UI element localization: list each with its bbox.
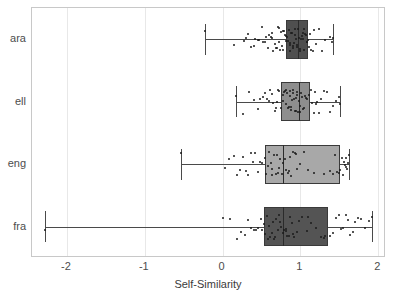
data-point: [345, 166, 347, 168]
data-point: [320, 98, 322, 100]
data-point: [318, 28, 320, 30]
data-point: [242, 113, 244, 115]
data-point: [289, 44, 291, 46]
data-point: [272, 50, 274, 52]
data-point: [248, 91, 250, 93]
data-point: [250, 152, 252, 154]
data-point: [349, 234, 351, 236]
y-axis-tick-ara: ara: [0, 32, 26, 44]
data-point: [342, 227, 344, 229]
data-point: [295, 110, 297, 112]
gridline-x-2: [378, 8, 379, 256]
data-point: [302, 32, 304, 34]
data-point: [258, 39, 260, 41]
data-point: [257, 108, 259, 110]
data-point: [279, 158, 281, 160]
data-point: [274, 110, 276, 112]
x-axis-title-text: Self-Similarity: [174, 278, 241, 290]
data-point: [346, 168, 348, 170]
data-point: [360, 218, 362, 220]
data-point: [313, 112, 315, 114]
data-point: [364, 227, 366, 229]
y-axis-tick-fra: fra: [0, 220, 26, 232]
data-point: [339, 169, 341, 171]
data-point: [268, 100, 270, 102]
data-point: [345, 214, 347, 216]
data-point: [271, 174, 273, 176]
data-point: [274, 43, 276, 45]
data-point: [304, 95, 306, 97]
data-point: [264, 157, 266, 159]
data-point: [308, 46, 310, 48]
data-point: [265, 36, 267, 38]
whisker-cap-low-fra: [45, 211, 46, 242]
data-point: [244, 234, 246, 236]
data-point: [313, 29, 315, 31]
y-axis-tick-ell: ell: [0, 95, 26, 107]
data-point: [288, 29, 290, 31]
data-point: [292, 89, 294, 91]
data-point: [309, 33, 311, 35]
data-point: [293, 42, 295, 44]
box-ara: [286, 20, 308, 59]
data-point: [242, 156, 244, 158]
data-point: [306, 41, 308, 43]
data-point: [345, 157, 347, 159]
data-point: [303, 28, 305, 30]
data-point: [294, 28, 296, 30]
data-point: [368, 220, 370, 222]
data-point: [289, 95, 291, 97]
median-line-eng: [283, 145, 284, 184]
y-axis-tick-eng: eng: [0, 157, 26, 169]
data-point: [247, 174, 249, 176]
data-point: [255, 229, 257, 231]
data-point: [281, 173, 283, 175]
x-axis-tick-neg2: -2: [61, 260, 71, 272]
data-point: [268, 225, 270, 227]
data-point: [326, 91, 328, 93]
data-point: [292, 233, 294, 235]
data-point: [224, 167, 226, 169]
data-point: [264, 92, 266, 94]
data-point: [250, 46, 252, 48]
data-point: [282, 100, 284, 102]
gridline-x-neg2: [67, 8, 68, 256]
data-point: [288, 235, 290, 237]
data-point: [315, 43, 317, 45]
data-point: [338, 172, 340, 174]
data-point: [283, 30, 285, 32]
data-point: [272, 102, 274, 104]
data-point: [298, 100, 300, 102]
data-point: [239, 169, 241, 171]
y-axis-tick-labels: araellengfra: [0, 0, 28, 297]
data-point: [261, 26, 263, 28]
data-point: [301, 35, 303, 37]
data-point: [235, 95, 237, 97]
x-axis-tick-0: 0: [219, 260, 225, 272]
data-point: [236, 238, 238, 240]
data-point: [264, 41, 266, 43]
whisker-line-ara: [205, 39, 333, 40]
data-point: [329, 235, 331, 237]
whisker-cap-low-ell: [236, 86, 237, 117]
data-point: [278, 41, 280, 43]
data-point: [357, 217, 359, 219]
box-fra: [264, 207, 328, 246]
data-point: [267, 238, 269, 240]
data-point: [343, 161, 345, 163]
data-point: [307, 169, 309, 171]
data-point: [247, 33, 249, 35]
data-point: [280, 31, 282, 33]
data-point: [281, 45, 283, 47]
data-point: [233, 155, 235, 157]
data-point: [259, 98, 261, 100]
data-point: [339, 103, 341, 105]
data-point: [332, 105, 334, 107]
data-point: [290, 106, 292, 108]
data-point: [277, 26, 279, 28]
data-point: [252, 161, 254, 163]
data-point: [338, 214, 340, 216]
data-point: [306, 230, 308, 232]
data-point: [271, 32, 273, 34]
data-point: [275, 107, 277, 109]
